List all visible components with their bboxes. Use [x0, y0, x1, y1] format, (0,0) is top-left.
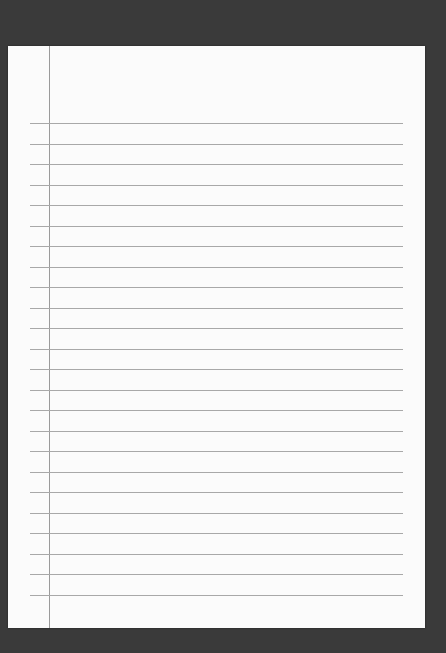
ruled-line — [30, 246, 403, 247]
ruled-line — [30, 349, 403, 350]
ruled-line — [30, 205, 403, 206]
ruled-line — [30, 472, 403, 473]
ruled-line — [30, 410, 403, 411]
lined-paper-sheet — [8, 46, 425, 628]
ruled-line — [30, 144, 403, 145]
ruled-line — [30, 492, 403, 493]
ruled-line — [30, 451, 403, 452]
ruled-line — [30, 267, 403, 268]
ruled-line — [30, 123, 403, 124]
ruled-line — [30, 574, 403, 575]
ruled-line — [30, 185, 403, 186]
ruled-line — [30, 595, 403, 596]
ruled-line — [30, 226, 403, 227]
ruled-line — [30, 287, 403, 288]
ruled-line — [30, 554, 403, 555]
margin-line — [49, 46, 50, 628]
ruled-line — [30, 308, 403, 309]
ruled-line — [30, 369, 403, 370]
ruled-line — [30, 431, 403, 432]
ruled-line — [30, 513, 403, 514]
ruled-line — [30, 164, 403, 165]
ruled-line — [30, 390, 403, 391]
ruled-line — [30, 328, 403, 329]
ruled-line — [30, 533, 403, 534]
